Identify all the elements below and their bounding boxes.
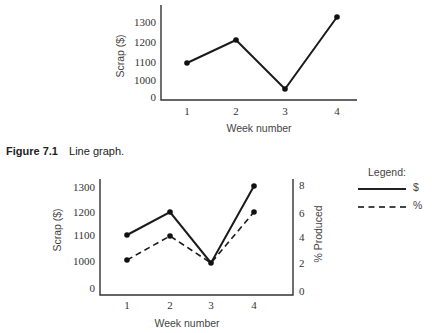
top-ylabel: Scrap ($) — [114, 34, 126, 77]
dual-axis-graph-bottom: 1300 1200 1100 1000 0 Scrap ($) 8 6 4 2 … — [51, 179, 324, 329]
bottom-ytick-1200: 1200 — [73, 206, 96, 218]
legend-item-dollars: $ — [358, 180, 432, 196]
bottom-y2tick-6: 6 — [299, 207, 305, 219]
dollars-point-2 — [167, 209, 173, 215]
top-point-2 — [233, 37, 239, 43]
dollars-point-4 — [251, 183, 257, 189]
dashed-line-icon — [358, 206, 406, 208]
legend-label-percent: % — [413, 199, 422, 211]
percent-point-2 — [167, 233, 173, 239]
bottom-xlabel: Week number — [154, 317, 220, 329]
top-axes — [161, 5, 357, 100]
bottom-y2tick-0: 0 — [299, 285, 305, 297]
legend: Legend: $ % — [358, 166, 432, 214]
legend-label-dollars: $ — [413, 181, 419, 193]
top-ytick-1200: 1200 — [134, 36, 157, 48]
line-graph-top: 1300 1200 1100 1000 0 Scrap ($) 1 2 3 4 … — [114, 5, 357, 134]
top-point-3 — [282, 86, 288, 92]
bottom-series-dollars — [127, 186, 254, 263]
bottom-y2label: % Produced — [312, 205, 324, 262]
figure-caption: Figure 7.1 Line graph. — [6, 145, 124, 157]
legend-item-percent: % — [358, 198, 432, 214]
dollars-point-1 — [124, 232, 130, 238]
bottom-ytick-0: 0 — [90, 282, 96, 294]
bottom-xtick-4: 4 — [251, 299, 257, 311]
bottom-ytick-1100: 1100 — [73, 229, 95, 241]
bottom-xtick-3: 3 — [208, 299, 214, 311]
bottom-ytick-1000: 1000 — [73, 255, 96, 267]
percent-point-4 — [251, 209, 257, 215]
percent-point-1 — [124, 257, 130, 263]
top-xtick-1: 1 — [184, 105, 190, 117]
bottom-xtick-1: 1 — [124, 299, 130, 311]
top-ytick-1000: 1000 — [134, 74, 157, 86]
bottom-y2tick-4: 4 — [299, 231, 305, 243]
top-ytick-1100: 1100 — [134, 56, 156, 68]
top-xtick-4: 4 — [334, 105, 340, 117]
solid-line-icon — [358, 188, 406, 190]
bottom-y2tick-8: 8 — [299, 179, 305, 191]
top-ytick-0: 0 — [151, 91, 157, 103]
top-xtick-3: 3 — [282, 105, 288, 117]
figure-title: Line graph. — [69, 145, 124, 157]
bottom-y2tick-2: 2 — [299, 257, 305, 269]
top-point-1 — [184, 60, 190, 66]
figure-number: Figure 7.1 — [6, 145, 58, 157]
bottom-ytick-1300: 1300 — [73, 181, 96, 193]
top-point-4 — [334, 14, 340, 20]
top-xtick-2: 2 — [233, 105, 239, 117]
top-ytick-1300: 1300 — [134, 16, 157, 28]
top-series-scrap — [187, 17, 337, 89]
legend-title: Legend: — [368, 166, 432, 178]
bottom-ylabel: Scrap ($) — [51, 208, 63, 251]
bottom-xtick-2: 2 — [167, 299, 173, 311]
top-xlabel: Week number — [226, 122, 292, 134]
